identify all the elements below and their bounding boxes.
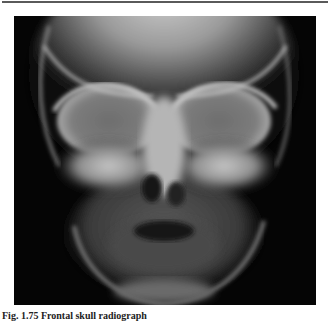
radiograph-image	[14, 16, 316, 305]
top-rule	[2, 1, 328, 3]
skull-radiograph-figure	[14, 16, 316, 305]
figure-caption: Fig. 1.75 Frontal skull radiograph	[2, 310, 328, 322]
nasal-cavity-left	[142, 174, 162, 202]
mouth-shadow	[134, 221, 194, 241]
chin	[114, 279, 214, 303]
caption-text: Frontal skull radiograph	[41, 310, 147, 321]
nasal-cavity-right	[167, 182, 185, 206]
caption-label: Fig. 1.75	[2, 310, 38, 321]
